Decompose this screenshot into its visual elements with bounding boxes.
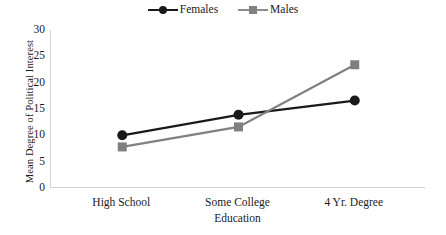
plot-area (50, 30, 425, 188)
series-canvas (51, 30, 426, 188)
x-axis-title: Education (50, 212, 425, 224)
data-point-females-1 (234, 110, 244, 120)
legend-label-females: Females (180, 4, 218, 16)
data-point-females-2 (350, 96, 360, 106)
data-point-males-0 (118, 142, 127, 151)
legend-label-males: Males (270, 4, 298, 16)
legend-item-females: Females (148, 4, 218, 16)
legend-key-females (148, 5, 178, 16)
y-axis-tick-label: 30 (6, 24, 50, 36)
chart-figure: Females Males Mean Degree of Political I… (0, 0, 446, 235)
y-axis-tick-label: 20 (6, 77, 50, 89)
data-point-males-1 (234, 122, 243, 131)
legend-item-males: Males (238, 4, 298, 16)
x-axis-tick-labels: High SchoolSome College4 Yr. Degree (50, 196, 425, 212)
chart-legend: Females Males (0, 2, 446, 18)
y-axis-tick-label: 0 (6, 182, 50, 194)
y-axis-tick-label: 15 (6, 103, 50, 115)
data-point-males-2 (350, 60, 359, 69)
square-marker-icon (249, 6, 257, 14)
y-axis-tick-label: 25 (6, 50, 50, 62)
x-axis-tick-label: 4 Yr. Degree (284, 196, 424, 208)
circle-marker-icon (159, 6, 167, 14)
legend-key-males (238, 5, 268, 16)
y-axis-tick-labels: 051015202530 (0, 0, 50, 235)
y-axis-tick-label: 5 (6, 156, 50, 168)
data-point-females-0 (117, 130, 127, 140)
y-axis-tick-label: 10 (6, 129, 50, 141)
